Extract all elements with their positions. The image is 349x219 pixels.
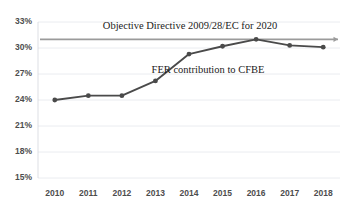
- x-tick-label: 2015: [213, 188, 232, 198]
- x-tick-label: 2011: [79, 188, 98, 198]
- data-point-marker: [52, 98, 57, 103]
- y-tick-label: 27%: [15, 68, 32, 78]
- data-point-marker: [153, 79, 158, 84]
- annotation-objective-annotation: Objective Directive 2009/28/EC for 2020: [103, 20, 277, 31]
- y-tick-label: 24%: [15, 94, 32, 104]
- objective-line-arrowhead-icon: [334, 37, 339, 42]
- chart-annotations: Objective Directive 2009/28/EC for 2020F…: [103, 20, 277, 75]
- line-chart: 15%18%21%24%27%30%33% 201020112012201320…: [0, 0, 349, 219]
- chart-container: 15%18%21%24%27%30%33% 201020112012201320…: [0, 0, 349, 219]
- x-tick-label: 2017: [280, 188, 299, 198]
- annotation-series-annotation: FER contribution to CFBE: [152, 64, 265, 75]
- x-tick-label: 2014: [180, 188, 199, 198]
- x-tick-label: 2010: [45, 188, 64, 198]
- y-tick-label: 21%: [15, 120, 32, 130]
- data-point-marker: [119, 93, 124, 98]
- y-tick-label: 15%: [15, 172, 32, 182]
- objective-reference-line: [40, 37, 338, 42]
- data-point-marker: [254, 37, 259, 42]
- x-tick-label: 2018: [314, 188, 333, 198]
- y-tick-label: 30%: [15, 42, 32, 52]
- y-axis-ticks: 15%18%21%24%27%30%33%: [15, 16, 32, 182]
- data-point-marker: [187, 52, 192, 57]
- data-point-marker: [287, 43, 292, 48]
- data-point-marker: [86, 93, 91, 98]
- y-tick-label: 33%: [15, 16, 32, 26]
- x-tick-label: 2013: [146, 188, 165, 198]
- x-axis-ticks: 201020112012201320142015201620172018: [45, 188, 333, 198]
- data-point-marker: [220, 44, 225, 49]
- x-tick-label: 2016: [247, 188, 266, 198]
- x-tick-label: 2012: [112, 188, 131, 198]
- data-point-marker: [321, 45, 326, 50]
- y-tick-label: 18%: [15, 146, 32, 156]
